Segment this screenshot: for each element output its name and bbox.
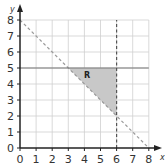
x-axis-arrow-icon: [154, 145, 162, 151]
y-tick-label: 1: [7, 126, 14, 139]
y-tick-label: 8: [7, 14, 14, 27]
y-tick-label: 3: [7, 94, 14, 107]
y-tick-label: 2: [7, 110, 14, 123]
y-axis-label: y: [9, 5, 15, 14]
x-tick-label: 4: [81, 153, 88, 166]
y-tick-label: 0: [7, 142, 14, 155]
x-tick-label: 0: [17, 153, 24, 166]
chart: 012345678012345678 x y R: [0, 0, 165, 168]
region-label: R: [84, 71, 90, 80]
x-tick-label: 2: [49, 153, 56, 166]
x-tick-label: 6: [113, 153, 120, 166]
y-tick-label: 7: [7, 30, 14, 43]
y-tick-label: 6: [7, 46, 14, 59]
x-tick-label: 7: [129, 153, 136, 166]
x-tick-label: 3: [65, 153, 72, 166]
x-tick-label: 1: [33, 153, 40, 166]
x-tick-label: 8: [145, 153, 152, 166]
x-axis-label: x: [159, 153, 165, 162]
x-tick-label: 5: [97, 153, 104, 166]
y-tick-label: 5: [7, 62, 14, 75]
y-axis-arrow-icon: [17, 4, 23, 12]
tick-labels: 012345678012345678: [7, 14, 152, 166]
y-tick-label: 4: [7, 78, 14, 91]
